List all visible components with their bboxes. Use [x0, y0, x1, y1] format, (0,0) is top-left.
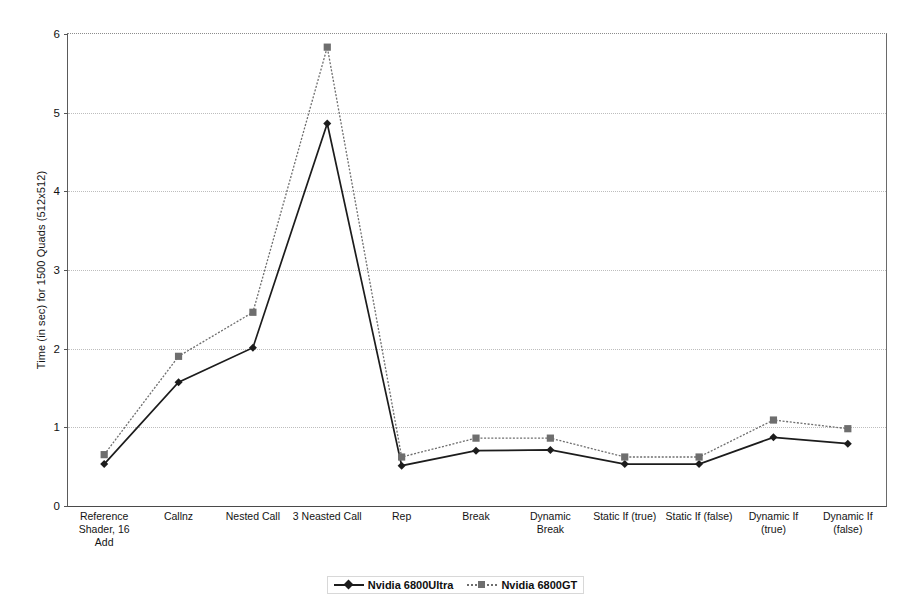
- y-axis-tick-mark: [64, 506, 68, 507]
- data-point-marker: [770, 416, 777, 423]
- y-axis-tick-label: 1: [54, 421, 60, 433]
- data-point-marker: [175, 353, 182, 360]
- chart-legend: Nvidia 6800Ultra Nvidia 6800GT: [0, 576, 911, 594]
- legend-box: Nvidia 6800Ultra Nvidia 6800GT: [327, 576, 584, 594]
- data-point-marker: [249, 344, 257, 352]
- data-point-marker: [101, 451, 108, 458]
- data-point-marker: [324, 44, 331, 51]
- x-axis-category-labels: ReferenceShader, 16AddCallnzNested Call3…: [67, 510, 885, 570]
- legend-label-gt: Nvidia 6800GT: [501, 579, 577, 591]
- y-axis-tick-label: 4: [54, 185, 60, 197]
- data-point-marker: [844, 425, 851, 432]
- series-line-1: [104, 123, 848, 465]
- data-point-marker: [472, 447, 480, 455]
- data-point-marker: [472, 435, 479, 442]
- legend-label-ultra: Nvidia 6800Ultra: [368, 579, 454, 591]
- legend-entry-ultra: Nvidia 6800Ultra: [334, 579, 454, 591]
- x-axis-category-label: Dynamic If(false): [802, 510, 894, 536]
- y-axis-tick-label: 6: [54, 28, 60, 40]
- series-layer: [67, 33, 885, 505]
- x-axis-category-label-line: Dynamic If: [802, 510, 894, 523]
- legend-marker-diamond-icon: [334, 580, 364, 590]
- x-axis-category-label-line: Shader, 16: [58, 523, 150, 536]
- legend-entry-gt: Nvidia 6800GT: [467, 579, 577, 591]
- data-point-marker: [695, 460, 703, 468]
- series-line-2: [104, 47, 848, 457]
- data-point-marker: [398, 462, 406, 470]
- data-point-marker: [398, 453, 405, 460]
- x-axis-category-label-line: (false): [802, 523, 894, 536]
- data-point-marker: [695, 453, 702, 460]
- y-axis-tick-label: 3: [54, 264, 60, 276]
- data-point-marker: [323, 119, 331, 127]
- data-point-marker: [844, 440, 852, 448]
- y-axis-tick-label: 2: [54, 343, 60, 355]
- data-point-marker: [769, 433, 777, 441]
- x-axis-category-label-line: Add: [58, 536, 150, 549]
- data-point-marker: [621, 453, 628, 460]
- data-point-marker: [546, 446, 554, 454]
- data-point-marker: [249, 309, 256, 316]
- x-axis-category-label-line: Break: [504, 523, 596, 536]
- performance-line-chart: Time (in sec) for 1500 Quads (512x512) 0…: [0, 0, 911, 609]
- y-axis-tick-label: 5: [54, 107, 60, 119]
- y-axis-title: Time (in sec) for 1500 Quads (512x512): [30, 30, 52, 510]
- data-point-marker: [547, 435, 554, 442]
- legend-marker-square-icon: [467, 580, 497, 590]
- data-point-marker: [621, 460, 629, 468]
